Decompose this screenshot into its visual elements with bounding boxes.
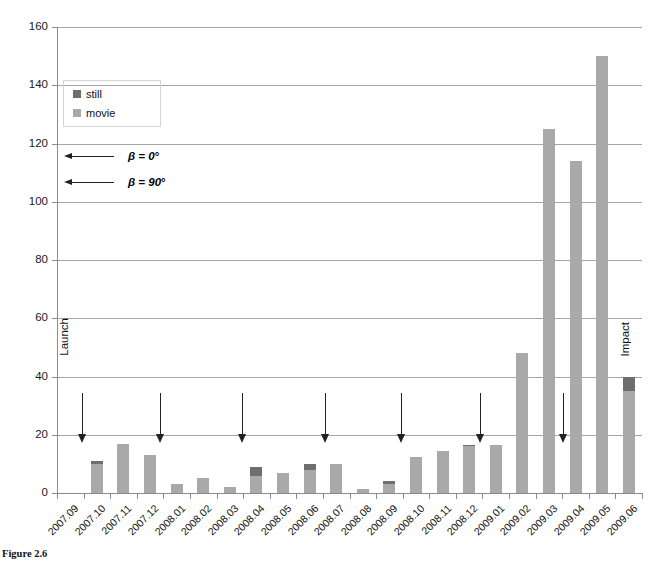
bar-segment-still <box>623 377 635 392</box>
bar-column <box>490 445 502 493</box>
bar-segment-movie <box>277 473 289 493</box>
event-label-launch: Launch <box>58 318 70 356</box>
legend-item-movie: movie <box>73 107 115 119</box>
beta-annotation-1: β = 90° <box>64 176 166 188</box>
bar-segment-movie <box>623 391 635 493</box>
bar-segment-movie <box>490 445 502 493</box>
x-tick-mark <box>57 494 58 499</box>
bar-column <box>543 129 555 493</box>
x-tick-mark <box>270 494 271 499</box>
figure-caption: Figure 2.6 <box>2 548 47 559</box>
bar-segment-movie <box>144 455 156 493</box>
y-tick-label: 100 <box>2 195 48 207</box>
bar-column <box>596 56 608 493</box>
x-tick-mark <box>163 494 164 499</box>
bar-column <box>91 461 103 493</box>
x-tick-mark <box>589 494 590 499</box>
caption-figure-number: Figure 2.6 <box>2 548 47 559</box>
legend-swatch-still <box>73 90 81 98</box>
bar-segment-movie <box>437 451 449 493</box>
x-tick-mark <box>615 494 616 499</box>
x-tick-mark <box>243 494 244 499</box>
bar-column <box>224 487 236 493</box>
bar-segment-movie <box>410 457 422 493</box>
bar-segment-movie <box>543 129 555 493</box>
bar-segment-movie <box>383 484 395 493</box>
bar-segment-movie <box>516 353 528 493</box>
bar-column <box>304 464 316 493</box>
bar-segment-movie <box>250 476 262 493</box>
event-arrow-icon <box>156 393 165 443</box>
bar-segment-movie <box>304 470 316 493</box>
bar-segment-movie <box>91 464 103 493</box>
legend-box: still movie <box>63 80 161 127</box>
legend-swatch-movie <box>73 109 81 117</box>
figure-container: 020406080100120140160 2007.092007.102007… <box>0 0 658 567</box>
left-arrow-icon <box>64 152 114 161</box>
beta-annotation-0: β = 0° <box>64 150 159 162</box>
event-label-impact: Impact <box>619 322 631 357</box>
y-tick-label: 80 <box>2 253 48 265</box>
event-arrow-icon <box>397 393 406 443</box>
bar-column <box>623 377 635 494</box>
y-tick-label: 60 <box>2 311 48 323</box>
bar-column <box>437 451 449 493</box>
bar-segment-movie <box>596 56 608 493</box>
bar-segment-movie <box>197 478 209 493</box>
bar-column <box>463 445 475 493</box>
x-tick-mark <box>509 494 510 499</box>
bar-column <box>570 161 582 493</box>
event-arrow-icon <box>78 393 87 443</box>
event-arrow-icon <box>238 393 247 443</box>
bar-column <box>117 444 129 494</box>
y-tick-label: 40 <box>2 370 48 382</box>
bar-segment-movie <box>171 484 183 493</box>
bar-column <box>250 467 262 493</box>
legend-label-still: still <box>86 88 102 100</box>
y-tick-label: 140 <box>2 78 48 90</box>
bar-column <box>383 481 395 493</box>
bar-column <box>516 353 528 493</box>
y-tick-label: 160 <box>2 20 48 32</box>
x-tick-mark <box>84 494 85 499</box>
x-tick-mark <box>296 494 297 499</box>
bar-column <box>410 457 422 493</box>
x-tick-mark <box>403 494 404 499</box>
bar-column <box>330 464 342 493</box>
event-arrow-icon <box>321 393 330 443</box>
event-arrow-icon <box>476 393 485 443</box>
x-tick-mark <box>137 494 138 499</box>
x-tick-mark <box>429 494 430 499</box>
event-arrow-icon <box>559 393 568 443</box>
x-tick-mark <box>323 494 324 499</box>
bar-column <box>144 455 156 493</box>
beta-label-0: β = 0° <box>128 150 159 162</box>
x-tick-mark <box>482 494 483 499</box>
legend-item-still: still <box>73 88 102 100</box>
x-tick-mark <box>376 494 377 499</box>
bar-segment-movie <box>570 161 582 493</box>
bar-column <box>357 489 369 493</box>
left-arrow-icon <box>64 178 114 187</box>
bar-segment-movie <box>357 489 369 493</box>
x-tick-mark <box>350 494 351 499</box>
y-tick-label: 0 <box>2 486 48 498</box>
y-tick-label: 120 <box>2 137 48 149</box>
legend-label-movie: movie <box>86 107 115 119</box>
x-tick-mark <box>536 494 537 499</box>
y-tick-label: 20 <box>2 428 48 440</box>
bar-segment-movie <box>463 446 475 493</box>
bar-column <box>171 484 183 493</box>
bar-column <box>277 473 289 493</box>
x-tick-mark <box>642 494 643 499</box>
bar-column <box>197 478 209 493</box>
bar-segment-still <box>250 467 262 476</box>
x-tick-mark <box>110 494 111 499</box>
bar-segment-movie <box>117 444 129 494</box>
beta-label-1: β = 90° <box>128 176 166 188</box>
x-tick-mark <box>562 494 563 499</box>
x-tick-mark <box>217 494 218 499</box>
x-tick-mark <box>190 494 191 499</box>
x-tick-mark <box>456 494 457 499</box>
bar-segment-movie <box>330 464 342 493</box>
